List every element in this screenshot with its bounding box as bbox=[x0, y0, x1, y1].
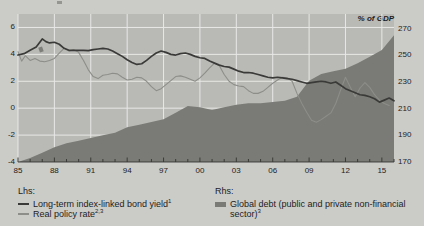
legend-item-global-debt: Global debt (public and private non-fina… bbox=[215, 199, 424, 220]
axis-tick-label: 85 bbox=[14, 167, 23, 175]
legend-column-lhs: Lhs: Long-term index-linked bond yield1 … bbox=[18, 186, 218, 220]
plot-area: % of GDP 6420-2-427025023021019017085889… bbox=[18, 14, 394, 162]
axis-tick-label: 91 bbox=[86, 167, 95, 175]
legend-label-bond-yield: Long-term index-linked bond yield bbox=[33, 199, 168, 209]
scan-artifact-top bbox=[57, 1, 62, 4]
chart-figure: % of GDP 6420-2-427025023021019017085889… bbox=[0, 0, 424, 226]
axis-tick-label: 190 bbox=[398, 131, 411, 139]
legend-swatch-bond-yield bbox=[18, 203, 29, 205]
axis-tick-label: 06 bbox=[268, 167, 277, 175]
legend-swatch-policy-rate bbox=[18, 213, 29, 215]
legend-label-global-debt: Global debt (public and private non-fina… bbox=[230, 199, 406, 220]
axis-tick-label: 210 bbox=[398, 105, 411, 113]
legend-column-rhs: Rhs: Global debt (public and private non… bbox=[215, 186, 424, 220]
axis-tick-label: 09 bbox=[305, 167, 314, 175]
legend-footnote-global-debt: 3 bbox=[258, 208, 261, 214]
axis-tick-label: 88 bbox=[50, 167, 59, 175]
axis-tick-label: 2 bbox=[11, 77, 15, 85]
axis-tick-label: 15 bbox=[377, 167, 386, 175]
axis-tick-label: 4 bbox=[11, 50, 15, 58]
axis-tick-label: 230 bbox=[398, 78, 411, 86]
axis-tick-label: 170 bbox=[398, 158, 411, 166]
axis-tick-label: 6 bbox=[11, 23, 15, 31]
axis-tick-label: 94 bbox=[123, 167, 132, 175]
axis-tick-label: -4 bbox=[8, 158, 15, 166]
legend-heading-rhs: Rhs: bbox=[215, 186, 424, 197]
legend-footnote-policy-rate: 2,3 bbox=[95, 208, 103, 214]
legend-heading-lhs: Lhs: bbox=[18, 186, 218, 197]
axis-tick-label: 00 bbox=[195, 167, 204, 175]
axis-tick-label: 270 bbox=[398, 25, 411, 33]
legend-item-policy-rate: Real policy rate2,3 bbox=[18, 209, 218, 220]
axis-tick-label: 97 bbox=[159, 167, 168, 175]
axis-tick-label: 03 bbox=[232, 167, 241, 175]
axis-tick-label: -2 bbox=[8, 131, 15, 139]
axis-tick-label: 0 bbox=[11, 104, 15, 112]
axis-tick-label: 250 bbox=[398, 51, 411, 59]
axis-frame-and-ticks bbox=[18, 14, 394, 162]
axis-tick-label: 12 bbox=[341, 167, 350, 175]
legend-footnote-bond-yield: 1 bbox=[168, 198, 171, 204]
legend-item-bond-yield: Long-term index-linked bond yield1 bbox=[18, 199, 218, 210]
legend-label-policy-rate: Real policy rate bbox=[33, 209, 95, 219]
legend-swatch-global-debt bbox=[215, 202, 226, 207]
